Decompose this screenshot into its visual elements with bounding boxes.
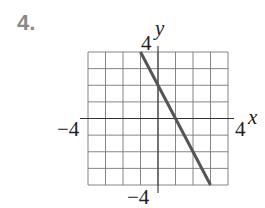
y-axis-label: y xyxy=(155,16,164,41)
y-min-label: −4 xyxy=(127,185,149,208)
x-max-label: 4 xyxy=(235,117,246,142)
y-max-label: 4 xyxy=(141,31,152,56)
x-min-label: −4 xyxy=(57,117,79,142)
x-axis-label: x xyxy=(248,105,257,130)
coordinate-grid xyxy=(0,0,265,208)
